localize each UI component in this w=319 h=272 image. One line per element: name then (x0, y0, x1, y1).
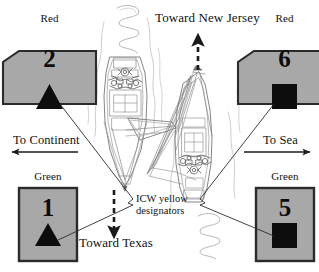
marker-2-number: 2 (23, 46, 76, 71)
leader-lines (58, 104, 274, 240)
icw-navigation-diagram: 2 6 1 5 Red Red Green Green Toward New J… (0, 0, 319, 272)
icw-annotation-line2: designators (136, 205, 184, 217)
sailboat-right-sketch (147, 66, 240, 259)
sailboat-left-sketch (88, 5, 176, 191)
label-toward-new-jersey: Toward New Jersey (155, 11, 260, 25)
icw-annotation-line1: ICW yellow (136, 193, 188, 205)
marker-1-number: 1 (19, 195, 77, 220)
marker-6-square-symbol (272, 84, 297, 109)
marker-5-color-label: Green (256, 171, 314, 183)
marker-2-color-label: Red (23, 13, 76, 25)
label-to-continent: To Continent (13, 134, 80, 147)
marker-5-number: 5 (256, 195, 314, 220)
label-toward-texas: Toward Texas (79, 236, 153, 250)
label-to-sea: To Sea (263, 134, 298, 147)
marker-6-number: 6 (258, 46, 311, 71)
marker-5-square-symbol (272, 223, 297, 248)
marker-6-color-label: Red (258, 13, 311, 25)
marker-1-color-label: Green (19, 171, 77, 183)
